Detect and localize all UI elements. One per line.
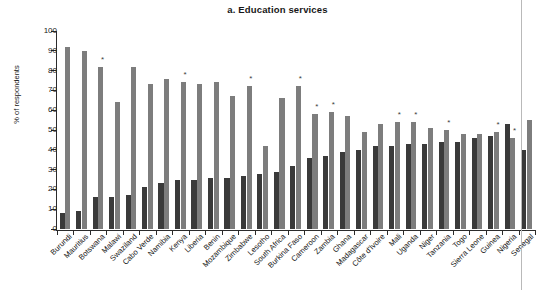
bar-dark (422, 144, 427, 229)
significance-star: * (328, 102, 338, 108)
bar-light (131, 67, 136, 229)
bar-dark (307, 158, 312, 229)
bar-dark (389, 146, 394, 229)
bar-group (142, 31, 158, 229)
bar-light (378, 124, 383, 229)
significance-star: * (510, 128, 520, 134)
significance-star: * (493, 122, 503, 128)
bar-light (345, 116, 350, 229)
bar-light (411, 122, 416, 229)
bar-light (214, 82, 219, 229)
bar-dark (208, 178, 213, 229)
bar-light (296, 86, 301, 229)
bar-dark (93, 197, 98, 229)
bar-light (510, 138, 515, 229)
bar-group: * (505, 31, 521, 229)
bar-light (247, 86, 252, 229)
bar-dark (175, 180, 180, 230)
y-axis-tick-label: 100 (11, 27, 57, 35)
y-axis-tick-label: 90 (11, 47, 57, 55)
bar-group: * (241, 31, 257, 229)
plot-area: *********** (57, 31, 535, 229)
y-axis-tick-label: 80 (11, 67, 57, 75)
significance-star: * (394, 112, 404, 118)
bar-dark (191, 180, 196, 230)
y-axis-tick-label: 50 (11, 126, 57, 134)
bar-group (224, 31, 240, 229)
bar-light (312, 114, 317, 229)
bar-group: * (307, 31, 323, 229)
bar-light (82, 51, 87, 229)
bar-dark (158, 183, 163, 229)
bar-group: * (290, 31, 306, 229)
y-axis-tick-label: 30 (11, 166, 57, 174)
bar-light (461, 134, 466, 229)
bar-dark (60, 213, 65, 229)
chart-figure: a. Education services % of respondents 0… (0, 0, 555, 304)
significance-star: * (98, 57, 108, 63)
bar-light (395, 122, 400, 229)
bar-group (257, 31, 273, 229)
bar-group (76, 31, 92, 229)
bar-dark (224, 178, 229, 229)
bar-group: * (439, 31, 455, 229)
bar-dark (340, 152, 345, 229)
y-axis-tick-label: 10 (11, 205, 57, 213)
bar-dark (323, 156, 328, 229)
bar-dark (126, 195, 131, 229)
bar-dark (455, 142, 460, 229)
bar-group: * (175, 31, 191, 229)
bar-group (191, 31, 207, 229)
bar-light (362, 132, 367, 229)
bar-group (340, 31, 356, 229)
bar-group (356, 31, 372, 229)
bar-dark (356, 150, 361, 229)
bar-light (428, 128, 433, 229)
bar-dark (109, 197, 114, 229)
bar-group (274, 31, 290, 229)
bar-group: * (488, 31, 504, 229)
bar-group (208, 31, 224, 229)
bar-dark (505, 124, 510, 229)
significance-star: * (411, 112, 421, 118)
bar-dark (257, 174, 262, 229)
x-axis-labels: BurundiMauritiusBotswanaMalawiSwazilandC… (0, 229, 555, 304)
bar-group (422, 31, 438, 229)
bar-dark (274, 172, 279, 229)
bar-light (181, 82, 186, 229)
bar-light (527, 120, 532, 229)
bar-group: * (323, 31, 339, 229)
bar-dark (472, 138, 477, 229)
bar-light (494, 132, 499, 229)
bar-group (126, 31, 142, 229)
bar-group (109, 31, 125, 229)
significance-star: * (180, 72, 190, 78)
bar-light (230, 96, 235, 229)
bar-group (60, 31, 76, 229)
bar-light (65, 47, 70, 229)
bar-light (115, 102, 120, 229)
bar-light (197, 84, 202, 229)
bar-dark (373, 146, 378, 229)
bar-light (279, 98, 284, 229)
y-axis-tick-label: 60 (11, 106, 57, 114)
bar-light (263, 146, 268, 229)
bar-light (98, 67, 103, 229)
bar-group (521, 31, 537, 229)
bar-group (373, 31, 389, 229)
bar-light (148, 84, 153, 229)
bar-light (164, 79, 169, 229)
bar-group: * (389, 31, 405, 229)
significance-star: * (444, 120, 454, 126)
significance-star: * (312, 104, 322, 110)
bar-group: * (93, 31, 109, 229)
significance-star: * (295, 76, 305, 82)
bar-dark (76, 211, 81, 229)
bar-group (158, 31, 174, 229)
chart-title: a. Education services (0, 4, 555, 15)
y-axis-tick-label: 20 (11, 185, 57, 193)
bar-group (455, 31, 471, 229)
y-axis-tick-label: 70 (11, 86, 57, 94)
bar-dark (142, 187, 147, 229)
bar-dark (290, 166, 295, 229)
